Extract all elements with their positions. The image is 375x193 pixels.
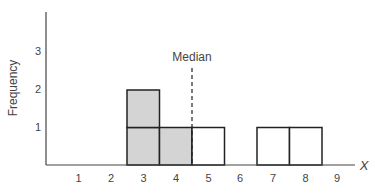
x-tick-7: 7 [270,172,276,184]
bars [127,90,322,165]
bar-5 [192,128,225,166]
y-axis-label: Frequency [6,60,20,117]
x-tick-2: 2 [108,172,114,184]
y-tick-3: 3 [35,45,41,57]
x-tick-9: 9 [334,172,340,184]
x-tick-3: 3 [140,172,146,184]
x-tick-5: 5 [205,172,211,184]
bar-3-lower [127,128,160,166]
bar-7 [257,128,290,166]
x-tick-4: 4 [173,172,179,184]
x-tick-1: 1 [75,172,81,184]
x-tick-8: 8 [302,172,308,184]
y-tick-2: 2 [35,83,41,95]
y-tick-1: 1 [35,121,41,133]
x-tick-6: 6 [237,172,243,184]
histogram-chart: Median 1 2 3 Frequency 1 2 3 4 5 6 7 8 9… [0,0,375,193]
median-label: Median [172,50,211,64]
bar-8 [290,128,323,166]
bar-3-upper [127,90,160,128]
bar-4 [160,128,193,166]
x-axis-label: X [359,158,370,173]
